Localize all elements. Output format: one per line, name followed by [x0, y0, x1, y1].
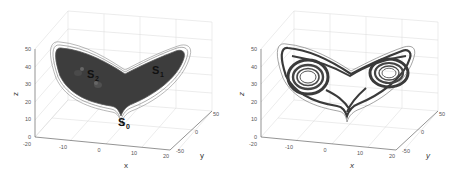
y-tick-labels: -50 0 50 — [402, 111, 445, 154]
svg-text:20: 20 — [389, 153, 395, 159]
y-axis-label: y — [200, 151, 204, 160]
svg-text:20: 20 — [163, 153, 169, 159]
svg-text:0: 0 — [421, 129, 424, 135]
svg-text:-20: -20 — [23, 141, 31, 147]
left-plot: S 2 S 1 S 0 50 40 30 20 10 0 z -20 -10 0… — [0, 0, 225, 178]
z-tick-labels: 50 40 30 20 10 0 — [251, 46, 257, 140]
right-plot: 50 40 30 20 10 0 z -20 -10 0 10 20 x -50… — [226, 0, 451, 178]
svg-text:10: 10 — [25, 116, 31, 122]
svg-text:0: 0 — [195, 129, 198, 135]
x-tick-labels: -20 -10 0 10 20 — [23, 141, 169, 159]
lorenz-attractor-dense — [50, 42, 190, 124]
svg-text:0: 0 — [254, 134, 257, 140]
svg-text:30: 30 — [25, 81, 31, 87]
z-tick-labels: 50 40 30 20 10 0 — [25, 46, 31, 140]
y-tick-labels: -50 0 50 — [176, 111, 219, 154]
s1-subscript: 1 — [160, 71, 164, 78]
svg-text:40: 40 — [25, 64, 31, 70]
svg-text:30: 30 — [251, 81, 257, 87]
z-axis-label: z — [11, 92, 20, 96]
svg-text:50: 50 — [25, 46, 31, 52]
svg-text:20: 20 — [25, 99, 31, 105]
x-axis-label: x — [349, 161, 355, 170]
lorenz-attractor-rings — [277, 44, 414, 122]
svg-text:-20: -20 — [249, 141, 257, 147]
x-axis-label: x — [124, 161, 128, 170]
left-plot-canvas: S 2 S 1 S 0 50 40 30 20 10 0 z -20 -10 0… — [0, 0, 225, 178]
svg-text:0: 0 — [97, 147, 100, 153]
svg-text:10: 10 — [357, 150, 363, 156]
svg-text:0: 0 — [28, 134, 31, 140]
y-axis-label: y — [425, 151, 431, 160]
s0-label: S — [118, 116, 125, 128]
svg-text:20: 20 — [251, 99, 257, 105]
s2-subscript: 2 — [95, 75, 99, 82]
s0-subscript: 0 — [126, 123, 130, 130]
svg-text:10: 10 — [251, 116, 257, 122]
svg-text:40: 40 — [251, 64, 257, 70]
svg-text:-50: -50 — [176, 148, 184, 154]
right-plot-canvas: 50 40 30 20 10 0 z -20 -10 0 10 20 x -50… — [226, 0, 451, 178]
svg-text:50: 50 — [213, 111, 219, 117]
annotation-s0: S 0 — [118, 116, 130, 130]
svg-text:-10: -10 — [285, 144, 293, 150]
svg-text:50: 50 — [439, 111, 445, 117]
s2-label: S — [87, 68, 94, 80]
z-axis-label: z — [237, 92, 246, 97]
svg-text:0: 0 — [323, 147, 326, 153]
svg-text:10: 10 — [131, 150, 137, 156]
svg-text:50: 50 — [251, 46, 257, 52]
svg-text:-50: -50 — [402, 148, 410, 154]
s1-label: S — [152, 64, 159, 76]
svg-text:-10: -10 — [59, 144, 67, 150]
x-tick-labels: -20 -10 0 10 20 — [249, 141, 395, 159]
